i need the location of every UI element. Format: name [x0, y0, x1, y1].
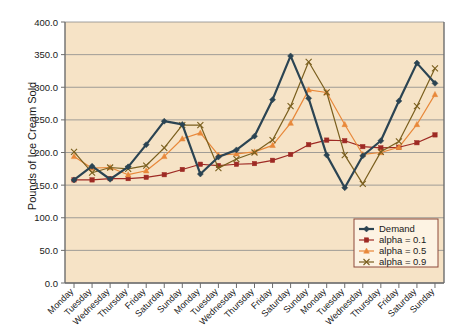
data-point-marker — [343, 139, 347, 143]
data-point-marker — [288, 152, 292, 156]
y-axis-tick-label: 200.0 — [34, 147, 58, 158]
data-point-marker — [162, 172, 166, 176]
data-point-marker — [180, 167, 184, 171]
data-point-marker — [361, 144, 365, 148]
line-chart-plot: 0.050.0100.0150.0200.0250.0300.0350.0400… — [0, 0, 466, 333]
data-point-marker — [433, 133, 437, 137]
data-point-marker — [198, 162, 202, 166]
chart-legend: Demandalpha = 0.1alpha = 0.5alpha = 0.9 — [354, 219, 438, 267]
legend-item-label: Demand — [379, 223, 415, 234]
y-axis-tick-label: 250.0 — [34, 114, 58, 125]
y-axis-tick-label: 0.0 — [45, 278, 58, 289]
y-axis-tick-label: 150.0 — [34, 180, 58, 191]
y-axis-tick-label: 50.0 — [40, 245, 59, 256]
y-axis-tick-label: 300.0 — [34, 82, 58, 93]
data-point-marker — [252, 161, 256, 165]
chart-container: Pounds of Ice Cream Sold 0.050.0100.0150… — [0, 0, 466, 333]
y-axis-tick-label: 100.0 — [34, 212, 58, 223]
data-point-marker — [144, 175, 148, 179]
data-point-marker — [270, 158, 274, 162]
y-axis-tick-label: 350.0 — [34, 49, 58, 60]
data-point-marker — [90, 178, 94, 182]
legend-item-label: alpha = 0.5 — [379, 245, 426, 256]
legend-item-label: alpha = 0.9 — [379, 256, 426, 267]
data-point-marker — [364, 238, 368, 242]
data-point-marker — [415, 141, 419, 145]
data-point-marker — [234, 162, 238, 166]
data-point-marker — [306, 142, 310, 146]
data-point-marker — [324, 138, 328, 142]
y-axis-tick-label: 400.0 — [34, 17, 58, 28]
legend-item-label: alpha = 0.1 — [379, 234, 426, 245]
